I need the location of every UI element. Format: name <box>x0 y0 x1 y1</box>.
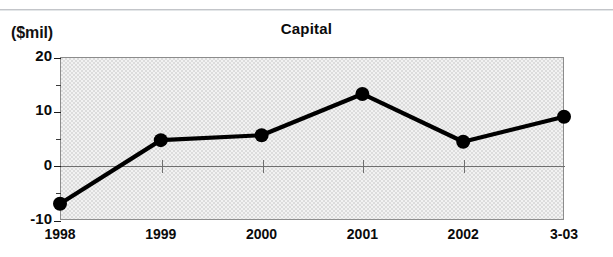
y-axis-tick-label: 10 <box>0 101 52 118</box>
y-axis-tick-label: -10 <box>0 210 52 227</box>
x-axis-tick-label: 1999 <box>145 226 176 242</box>
y-axis-tick-label: 20 <box>0 47 52 64</box>
x-axis-tick-label: 2002 <box>448 226 479 242</box>
x-axis-tick-label: 3-03 <box>550 226 578 242</box>
y-axis-tick <box>54 58 61 59</box>
x-axis-tick <box>363 160 364 173</box>
y-axis-minor-tick <box>56 193 61 194</box>
x-axis-tick <box>263 160 264 173</box>
y-axis-tick-label: 0 <box>0 156 52 173</box>
y-axis-minor-tick <box>56 139 61 140</box>
y-axis-minor-tick <box>56 85 61 86</box>
x-axis-tick-label: 2000 <box>246 226 277 242</box>
plot-area <box>60 57 564 220</box>
x-axis-tick <box>464 160 465 173</box>
y-axis-tick <box>54 166 61 167</box>
x-axis-tick-label: 1998 <box>44 226 75 242</box>
y-axis-tick <box>54 112 61 113</box>
y-axis-tick <box>54 221 61 222</box>
x-axis-tick-label: 2001 <box>347 226 378 242</box>
chart-title: Capital <box>0 20 613 37</box>
zero-baseline <box>61 166 565 167</box>
scan-artifact-rule <box>0 9 613 10</box>
x-axis-tick <box>162 160 163 173</box>
chart-figure: ($mil) Capital 20100-1019981999200020012… <box>0 0 613 257</box>
